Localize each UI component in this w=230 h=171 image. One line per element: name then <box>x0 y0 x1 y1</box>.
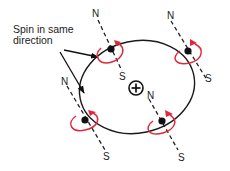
nucleus-icon <box>129 81 143 95</box>
electron-left <box>81 116 88 123</box>
spin-annotation-label: Spin in same direction <box>13 24 74 46</box>
electron-top-right <box>184 47 191 54</box>
pole-north-left: N <box>61 77 68 87</box>
pole-south-bottom-right: S <box>178 153 185 163</box>
annotation-line-2: direction <box>13 35 74 46</box>
pole-south-top-right: S <box>205 74 212 84</box>
pole-north-bottom-right: N <box>147 91 154 101</box>
pole-south-top-left: S <box>119 72 126 82</box>
electron-bottom-right <box>158 117 165 124</box>
electron-top-left <box>107 45 114 52</box>
pole-north-top-right: N <box>167 11 174 21</box>
axis-top-left <box>98 20 122 71</box>
arrow-to-top-left <box>64 50 98 57</box>
electron-spin-diagram: Spin in same direction N S N S N S N S <box>0 0 230 171</box>
pole-north-top-left: N <box>92 9 99 19</box>
pole-south-left: S <box>103 152 110 162</box>
